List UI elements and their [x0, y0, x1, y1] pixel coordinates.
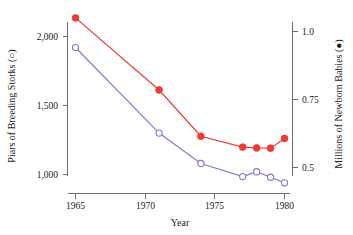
- x-tick-label-1965: 1965: [66, 201, 85, 211]
- data-point[interactable]: [156, 87, 163, 94]
- data-point[interactable]: [198, 133, 205, 140]
- data-point[interactable]: [239, 144, 246, 151]
- series-line-2: [76, 18, 285, 148]
- stork-birth-rate-chart: 2,000 1,500 1,000 Piars of Breeding Stor…: [0, 0, 353, 235]
- data-series-layer: [72, 15, 288, 186]
- left-axis: 2,000 1,500 1,000 Piars of Breeding Stor…: [6, 22, 68, 180]
- data-point[interactable]: [240, 173, 246, 179]
- right-axis-title: Millions of Newborn Babies (●): [333, 39, 345, 168]
- left-axis-title: Piars of Breeding Storks (○): [6, 49, 18, 162]
- right-axis: 1.0 0.75 0.5 Millions of Newborn Babies …: [293, 22, 346, 176]
- x-tick-label-1980: 1980: [275, 201, 294, 211]
- right-tick-label-0p75: 0.75: [302, 95, 319, 105]
- data-point[interactable]: [254, 169, 260, 175]
- data-point[interactable]: [281, 135, 288, 142]
- data-point[interactable]: [281, 180, 287, 186]
- data-point[interactable]: [253, 145, 260, 152]
- x-tick-label-1970: 1970: [136, 201, 155, 211]
- chart-canvas: 2,000 1,500 1,000 Piars of Breeding Stor…: [0, 0, 353, 235]
- left-tick-label-2000: 2,000: [37, 32, 59, 42]
- left-tick-label-1500: 1,500: [37, 101, 59, 111]
- data-point[interactable]: [156, 130, 162, 136]
- data-point[interactable]: [267, 174, 273, 180]
- x-tick-label-1975: 1975: [205, 201, 224, 211]
- series-line-1: [76, 48, 285, 183]
- right-tick-label-0p5: 0.5: [302, 163, 314, 173]
- data-point[interactable]: [267, 145, 274, 152]
- data-point[interactable]: [72, 44, 78, 50]
- bottom-axis: 1965 1970 1975 1980 Year: [66, 194, 294, 229]
- right-tick-label-1p0: 1.0: [302, 27, 314, 37]
- x-axis-title: Year: [171, 217, 190, 228]
- data-point[interactable]: [198, 160, 204, 166]
- data-point[interactable]: [72, 15, 79, 22]
- left-tick-label-1000: 1,000: [37, 170, 59, 180]
